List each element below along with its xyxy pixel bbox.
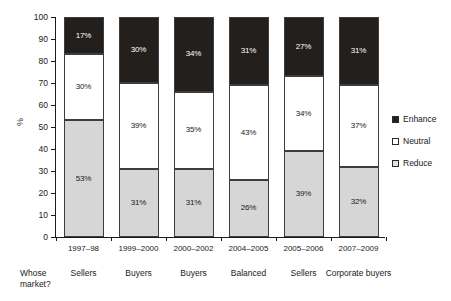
bar-segment-reduce[interactable]: 26% [229, 180, 269, 237]
y-axis-tick [51, 39, 55, 40]
legend-item[interactable]: Neutral [392, 130, 437, 152]
bar-segment-neutral[interactable]: 30% [64, 54, 104, 120]
bar-segment-value-label: 30% [76, 83, 92, 91]
legend-swatch-reduce-icon [392, 160, 399, 167]
y-axis-tick-label: 90 [22, 35, 48, 44]
y-axis-tick [51, 215, 55, 216]
bar-segment-reduce[interactable]: 53% [64, 120, 104, 237]
y-axis-tick-label: 100 [22, 13, 48, 22]
x-axis [55, 237, 385, 238]
bar-segment-value-label: 26% [241, 204, 257, 212]
y-axis-tick [51, 127, 55, 128]
bar-segment-enhance[interactable]: 30% [119, 17, 159, 83]
bar-segment-neutral[interactable]: 39% [119, 83, 159, 169]
y-axis-tick-label: 0 [22, 233, 48, 242]
y-axis-tick [51, 17, 55, 18]
plot-area: 53%30%17%31%39%30%31%35%34%26%43%31%39%3… [56, 17, 386, 237]
bar-segment-value-label: 30% [131, 46, 147, 54]
bar-segment-neutral[interactable]: 35% [174, 92, 214, 169]
y-axis-tick-label: 40 [22, 145, 48, 154]
bar-segment-value-label: 31% [186, 199, 202, 207]
bar-segment-enhance[interactable]: 31% [229, 17, 269, 85]
y-axis-tick [51, 193, 55, 194]
x-axis-tick [111, 237, 112, 241]
bar-stack[interactable]: 32%37%31% [339, 17, 379, 237]
y-axis-tick-label: 80 [22, 57, 48, 66]
bar-segment-value-label: 31% [131, 199, 147, 207]
bar-segment-value-label: 37% [351, 122, 367, 130]
bar-segment-reduce[interactable]: 31% [119, 169, 159, 237]
bar-segment-value-label: 53% [76, 175, 92, 183]
bar-segment-reduce[interactable]: 31% [174, 169, 214, 237]
bar-segment-enhance[interactable]: 27% [284, 17, 324, 76]
bar-segment-value-label: 39% [131, 122, 147, 130]
bar-stack[interactable]: 31%39%30% [119, 17, 159, 237]
bar-segment-value-label: 32% [351, 198, 367, 206]
x-axis-category-label: 2007–2009 [326, 244, 392, 253]
bar-segment-neutral[interactable]: 34% [284, 76, 324, 151]
y-axis-tick-label: 30 [22, 167, 48, 176]
legend-item[interactable]: Enhance [392, 108, 437, 130]
x-axis-tick [56, 237, 57, 241]
bar-segment-value-label: 39% [296, 190, 312, 198]
legend-item-label: Neutral [403, 137, 430, 146]
legend-swatch-neutral-icon [392, 138, 399, 145]
y-axis-tick [51, 83, 55, 84]
y-axis-tick-label: 70 [22, 79, 48, 88]
y-axis-tick [51, 171, 55, 172]
y-axis-tick-label: 50 [22, 123, 48, 132]
bar-segment-neutral[interactable]: 43% [229, 85, 269, 180]
bar-stack[interactable]: 26%43%31% [229, 17, 269, 237]
bar-segment-value-label: 34% [296, 110, 312, 118]
x-axis-tick [276, 237, 277, 241]
bar-segment-enhance[interactable]: 34% [174, 17, 214, 92]
y-axis-tick [51, 149, 55, 150]
footer-cell: Corporate buyers [323, 268, 395, 279]
x-axis-tick [166, 237, 167, 241]
x-axis-tick [331, 237, 332, 241]
legend-swatch-enhance-icon [392, 116, 399, 123]
x-axis-tick [386, 237, 387, 241]
bar-segment-reduce[interactable]: 39% [284, 151, 324, 237]
y-axis-tick-label: 60 [22, 101, 48, 110]
bar-segment-enhance[interactable]: 17% [64, 17, 104, 54]
bar-stack[interactable]: 31%35%34% [174, 17, 214, 237]
legend-item[interactable]: Reduce [392, 152, 437, 174]
bar-segment-value-label: 43% [241, 129, 257, 137]
bar-segment-value-label: 31% [241, 47, 257, 55]
y-axis-tick [51, 105, 55, 106]
bar-segment-value-label: 34% [186, 50, 202, 58]
stacked-bar-chart: % 0102030405060708090100 53%30%17%31%39%… [0, 0, 451, 301]
legend: EnhanceNeutralReduce [392, 108, 437, 174]
bar-segment-value-label: 27% [296, 43, 312, 51]
bar-segment-reduce[interactable]: 32% [339, 167, 379, 237]
legend-item-label: Enhance [403, 115, 437, 124]
bar-segment-value-label: 35% [186, 126, 202, 134]
x-axis-tick [221, 237, 222, 241]
bar-segment-value-label: 17% [76, 32, 92, 40]
y-axis-tick-label: 10 [22, 211, 48, 220]
bar-stack[interactable]: 39%34%27% [284, 17, 324, 237]
y-axis-tick-label: 20 [22, 189, 48, 198]
bar-stack[interactable]: 53%30%17% [64, 17, 104, 237]
y-axis-tick [51, 61, 55, 62]
legend-item-label: Reduce [403, 159, 432, 168]
bar-segment-neutral[interactable]: 37% [339, 85, 379, 166]
bar-segment-value-label: 31% [351, 47, 367, 55]
bar-segment-enhance[interactable]: 31% [339, 17, 379, 85]
